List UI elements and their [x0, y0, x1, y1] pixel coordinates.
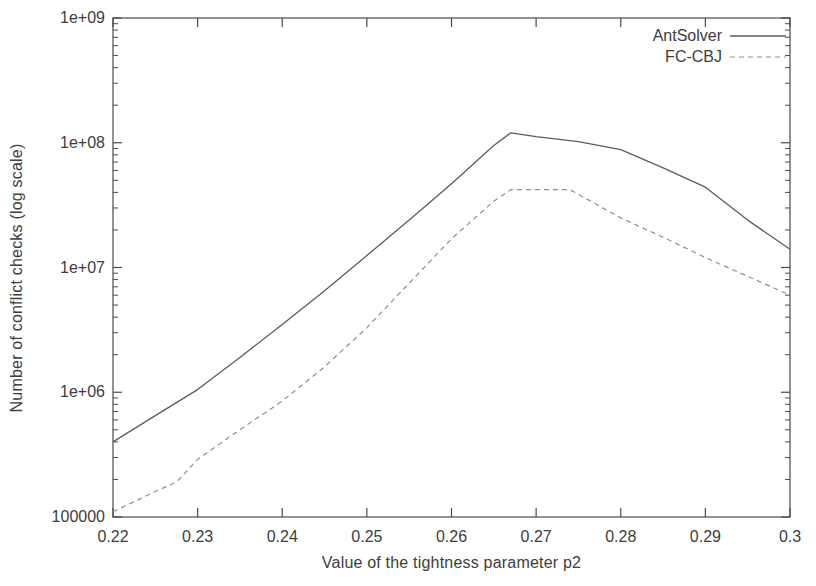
y-tick-label: 100000	[52, 508, 105, 525]
legend-label-fc-cbj: FC-CBJ	[665, 48, 722, 65]
series-antsolver-line	[113, 133, 790, 442]
chart-figure: 0.220.230.240.250.260.270.280.290.310000…	[0, 0, 816, 586]
x-tick-label: 0.22	[97, 528, 128, 545]
line-chart-canvas: 0.220.230.240.250.260.270.280.290.310000…	[0, 0, 816, 586]
x-tick-label: 0.26	[436, 528, 467, 545]
x-tick-label: 0.25	[351, 528, 382, 545]
x-tick-label: 0.23	[182, 528, 213, 545]
x-tick-label: 0.24	[267, 528, 298, 545]
series-fc-cbj-line	[113, 190, 790, 512]
x-axis-title: Value of the tightness parameter p2	[113, 554, 790, 572]
y-axis-title: Number of conflict checks (log scale)	[8, 68, 28, 488]
y-tick-label: 1e+09	[60, 9, 105, 26]
x-tick-label: 0.29	[690, 528, 721, 545]
x-tick-label: 0.27	[521, 528, 552, 545]
x-tick-label: 0.28	[605, 528, 636, 545]
y-tick-label: 1e+08	[60, 134, 105, 151]
y-tick-label: 1e+06	[60, 383, 105, 400]
y-tick-label: 1e+07	[60, 259, 105, 276]
x-tick-label: 0.3	[779, 528, 801, 545]
plot-border	[113, 18, 790, 517]
legend-label-antsolver: AntSolver	[653, 27, 723, 44]
